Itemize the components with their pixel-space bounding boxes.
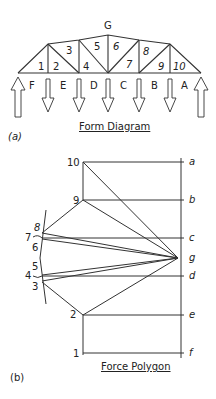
arc-4 [33, 276, 42, 278]
point-label-a: a [189, 156, 195, 167]
node-label-1: 1 [73, 348, 79, 359]
point-label-b: b [189, 194, 195, 205]
point-label-d: d [189, 270, 196, 281]
load-arrow-down-icon [73, 79, 85, 112]
form-diagram-caption: Form Diagram [79, 121, 150, 132]
space-number: 6 [113, 41, 119, 52]
panel-label-a: (a) [8, 131, 22, 142]
space-number: 9 [158, 61, 164, 72]
panel-label-b: (b) [10, 372, 24, 383]
space-number: 4 [83, 61, 89, 72]
member-3-2 [42, 282, 83, 315]
load-line-labels: a b c d e f g [189, 156, 196, 358]
graphic-statics-figure: 1 2 3 4 5 6 7 8 9 10 G F E D C B A Form … [0, 0, 216, 399]
space-number: 5 [94, 41, 100, 52]
point-label-e: e [189, 309, 195, 320]
space-number: 2 [53, 61, 59, 72]
point-label-c: c [189, 232, 195, 243]
space-number: 3 [66, 45, 72, 56]
space-number: 1 [38, 61, 44, 72]
load-letter: D [90, 80, 98, 91]
load-letter: A [181, 80, 188, 91]
node-label-6: 6 [32, 242, 38, 253]
node-label-9: 9 [73, 195, 79, 206]
node-label-8: 8 [34, 222, 40, 233]
load-arrow-down-icon [133, 79, 145, 112]
space-number: 7 [126, 59, 133, 70]
force-polygon [33, 158, 184, 358]
space-number: 10 [173, 61, 186, 72]
node-label-3: 3 [32, 281, 38, 292]
reaction-arrow-up-icon [11, 77, 25, 117]
pole-label-g: g [189, 252, 195, 263]
member-g-2 [83, 258, 178, 315]
load-letter: C [120, 80, 127, 91]
top-space-label: G [104, 20, 112, 31]
load-arrow-down-icon [102, 79, 114, 112]
node-label-10: 10 [67, 157, 80, 168]
node-label-7: 7 [25, 232, 31, 243]
node-number-labels: 10 9 8 7 6 5 4 3 2 1 [25, 157, 80, 359]
load-arrow-down-icon [164, 79, 176, 112]
member-g-3 [42, 258, 178, 281]
member-g-7 [42, 239, 178, 258]
reaction-arrow-up-icon [194, 77, 208, 117]
load-letter: B [151, 80, 158, 91]
load-letter: E [60, 80, 66, 91]
space-numbers: 1 2 3 4 5 6 7 8 9 10 G [38, 20, 186, 72]
arc-7 [33, 236, 42, 238]
load-arrows [11, 77, 208, 117]
point-label-f: f [189, 347, 194, 358]
space-number: 8 [143, 46, 149, 57]
load-arrow-down-icon [42, 79, 54, 112]
node-label-4: 4 [25, 270, 31, 281]
member-g-4 [42, 258, 178, 275]
force-polygon-caption: Force Polygon [101, 361, 171, 372]
node-label-2: 2 [70, 309, 76, 320]
load-letter: F [29, 80, 35, 91]
node-label-5: 5 [32, 261, 38, 272]
